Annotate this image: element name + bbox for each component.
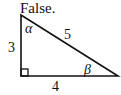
horizontal-leg-label: 4 [52,80,59,94]
angle-beta-label: β [84,63,91,77]
right-angle-marker [21,69,28,76]
angle-alpha-label: α [25,22,32,36]
hypotenuse-label: 5 [64,28,71,42]
triangle-shape [21,15,118,76]
right-triangle-diagram [0,0,121,95]
vertical-leg-label: 3 [8,41,15,55]
